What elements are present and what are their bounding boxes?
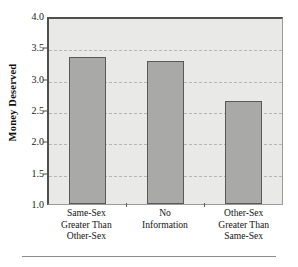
y-axis-title-text: Money Deserved <box>8 64 19 142</box>
bar-slot <box>127 19 205 204</box>
x-axis-category-label: Other-SexGreater ThanSame-Sex <box>204 207 283 242</box>
x-axis-category-label: NoInformation <box>126 207 205 242</box>
bar-slot <box>204 19 282 204</box>
x-axis-category-labels: Same-SexGreater ThanOther-SexNoInformati… <box>47 207 283 242</box>
bar-chart-figure: Money Deserved 1.01.52.02.53.03.54.0 Sam… <box>0 0 298 267</box>
x-axis-category-label-line: Information <box>126 219 205 231</box>
footer-rule <box>22 256 276 257</box>
x-axis-category-label-line: Other-Sex <box>204 207 283 219</box>
x-axis-category-label-line: No <box>126 207 205 219</box>
bar[interactable] <box>147 61 184 204</box>
x-axis-category-label-line: Greater Than <box>47 219 126 231</box>
x-axis-category-label-line: Other-Sex <box>47 230 126 242</box>
x-axis-category-label-line: Greater Than <box>204 219 283 231</box>
plot-area <box>47 17 283 205</box>
y-axis-title: Money Deserved <box>2 0 24 205</box>
bar-series <box>49 19 282 204</box>
y-axis-tick-label: 4.0 <box>32 12 45 22</box>
x-axis-category-label: Same-SexGreater ThanOther-Sex <box>47 207 126 242</box>
bar[interactable] <box>69 57 106 204</box>
y-axis-tick-label: 1.0 <box>32 200 45 210</box>
x-axis-category-label-line: Same-Sex <box>47 207 126 219</box>
bar-slot <box>49 19 127 204</box>
bar[interactable] <box>225 101 262 204</box>
y-axis-tick-labels: 1.01.52.02.53.03.54.0 <box>22 0 46 205</box>
x-axis-category-label-line: Same-Sex <box>204 230 283 242</box>
